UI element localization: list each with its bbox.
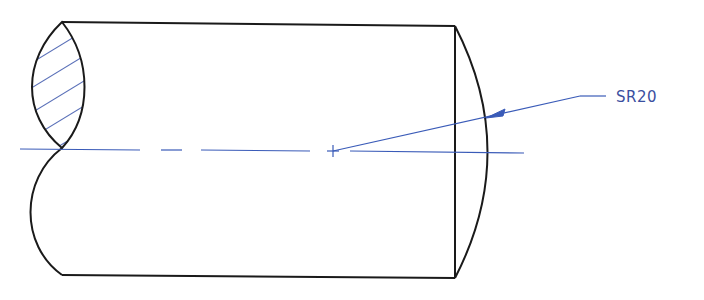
technical-drawing — [0, 0, 704, 300]
dimension-label: SR20 — [616, 88, 657, 106]
dimension-leader — [333, 96, 606, 151]
drawing-canvas: SR20 — [0, 0, 704, 300]
centerline — [20, 149, 524, 153]
break-arc-lower — [31, 148, 63, 275]
arrowhead-icon — [486, 109, 505, 118]
